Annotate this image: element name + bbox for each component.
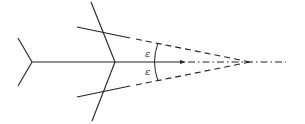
diagram-canvas: ε ε <box>0 0 305 124</box>
upper-epsilon-label: ε <box>145 48 150 59</box>
lower-line-dashed <box>136 62 250 85</box>
upper-line-solid <box>77 27 130 38</box>
upper-line-dashed <box>136 39 250 62</box>
tail-fork <box>18 38 32 86</box>
lower-line-solid <box>77 86 130 97</box>
lower-epsilon-label: ε <box>145 66 150 77</box>
arrowhead-icon <box>180 60 186 64</box>
